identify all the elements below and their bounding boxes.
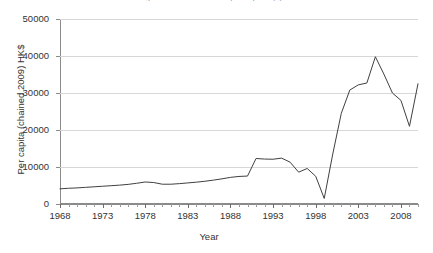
y-tick-label-10000: 10000 [0,162,56,172]
x-tick-1974 [111,204,112,207]
x-tick-label-1988: 1988 [220,210,241,221]
y-tick-label-30000: 30000 [0,88,56,98]
x-tick-1987 [222,204,223,207]
x-tick-label-1973: 1973 [92,210,113,221]
x-tick-1977 [137,204,138,207]
x-tick-2003 [358,204,359,208]
series-line-per-capita-value-added [60,57,418,199]
x-tick-2005 [375,204,376,207]
x-tick-1994 [282,204,283,207]
x-tick-label-1978: 1978 [135,210,156,221]
y-tick-label-40000: 40000 [0,51,56,61]
x-tick-1982 [179,204,180,207]
x-tick-1988 [230,204,231,208]
x-tick-2002 [350,204,351,207]
x-tick-1995 [290,204,291,207]
x-tick-1998 [316,204,317,208]
x-tick-1999 [324,204,325,207]
x-axis-title: Year [0,231,418,242]
y-axis-title: Per capita (chained 2009) HK$ [15,20,26,200]
x-tick-1972 [94,204,95,207]
x-tick-1976 [128,204,129,207]
plot-area [60,19,418,204]
x-tick-1986 [213,204,214,207]
y-tick-label-20000: 20000 [0,125,56,135]
x-tick-label-1993: 1993 [263,210,284,221]
x-axis-tick-labels: 196819731978198319881993199820032008 [0,210,433,224]
x-tick-1993 [273,204,274,208]
x-tick-2009 [409,204,410,207]
x-tick-label-1968: 1968 [49,210,70,221]
x-tick-1970 [77,204,78,207]
x-tick-1979 [154,204,155,207]
x-tick-1997 [307,204,308,207]
x-tick-1968 [60,204,61,208]
y-axis-tick-labels: 01000020000300004000050000 [0,19,56,204]
x-tick-2010 [418,204,419,207]
x-tick-1990 [248,204,249,207]
x-tick-2000 [333,204,334,207]
chart-title: Figure: Real value added per capita by y… [0,0,433,1]
x-tick-label-1983: 1983 [177,210,198,221]
x-tick-2008 [401,204,402,208]
x-tick-2004 [367,204,368,207]
x-tick-1991 [256,204,257,207]
x-tick-label-1998: 1998 [305,210,326,221]
x-axis-ticks [60,204,418,208]
x-tick-1983 [188,204,189,208]
x-tick-2001 [341,204,342,207]
x-tick-1969 [69,204,70,207]
x-tick-label-2003: 2003 [348,210,369,221]
x-tick-1981 [171,204,172,207]
x-tick-1971 [86,204,87,207]
x-tick-1978 [145,204,146,208]
x-tick-1985 [205,204,206,207]
x-tick-1989 [239,204,240,207]
x-tick-1975 [120,204,121,207]
chart-figure: Figure: Real value added per capita by y… [0,0,433,253]
x-tick-1973 [103,204,104,208]
x-tick-1992 [265,204,266,207]
y-tick-label-50000: 50000 [0,14,56,24]
y-tick-label-0: 0 [0,199,56,209]
x-tick-1984 [196,204,197,207]
x-tick-2006 [384,204,385,207]
x-tick-1980 [162,204,163,207]
x-tick-1996 [299,204,300,207]
line-series-svg [60,19,418,204]
x-tick-label-2008: 2008 [390,210,411,221]
x-tick-2007 [392,204,393,207]
